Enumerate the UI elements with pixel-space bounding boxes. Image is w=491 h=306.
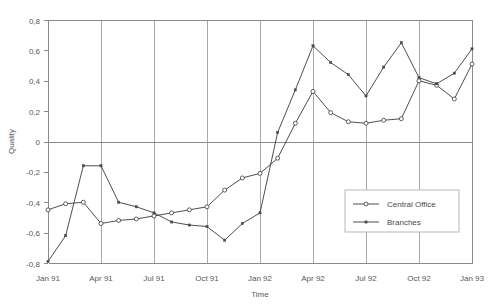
data-point-marker: [330, 61, 332, 63]
data-point-marker: [294, 89, 296, 91]
x-tick-label: Jan 91: [36, 274, 61, 283]
legend-marker-open-circle-icon: [364, 202, 368, 206]
data-point-marker: [277, 131, 279, 133]
data-point-marker: [64, 202, 68, 206]
data-point-marker: [188, 224, 190, 226]
data-point-marker: [187, 208, 191, 212]
x-tick-label: Apr 91: [89, 274, 113, 283]
line-chart: 0,80,60,40,20-0,2-0,4-0,6-0,8Jan 91Apr 9…: [0, 0, 491, 306]
data-point-marker: [452, 97, 456, 101]
data-point-marker: [329, 111, 333, 115]
data-point-marker: [383, 66, 385, 68]
x-tick-label: Jul 92: [355, 274, 377, 283]
legend-label: Central Office: [387, 200, 436, 209]
x-tick-label: Jul 91: [143, 274, 165, 283]
y-tick-label: 0,4: [29, 77, 41, 86]
data-point-marker: [153, 212, 155, 214]
data-point-marker: [400, 42, 402, 44]
legend-marker-dot-icon: [365, 221, 367, 223]
data-point-marker: [170, 211, 174, 215]
data-point-marker: [347, 74, 349, 76]
data-point-marker: [470, 62, 474, 66]
data-point-marker: [418, 77, 420, 79]
data-point-marker: [365, 95, 367, 97]
data-point-marker: [258, 171, 262, 175]
data-point-marker: [135, 206, 137, 208]
data-point-marker: [399, 117, 403, 121]
data-point-marker: [240, 176, 244, 180]
data-point-marker: [471, 48, 473, 50]
y-tick-label: -0,6: [26, 229, 40, 238]
data-point-marker: [99, 222, 103, 226]
data-point-marker: [346, 120, 350, 124]
data-point-marker: [382, 118, 386, 122]
data-point-marker: [436, 83, 438, 85]
data-point-marker: [47, 260, 49, 262]
legend-label: Branches: [387, 218, 421, 227]
data-point-marker: [81, 200, 85, 204]
y-tick-label: 0,2: [29, 108, 41, 117]
y-tick-label: -0,4: [26, 199, 40, 208]
y-tick-label: 0,8: [29, 17, 41, 26]
y-tick-label: 0: [36, 138, 41, 147]
data-point-marker: [46, 208, 50, 212]
data-point-marker: [205, 205, 209, 209]
data-point-marker: [152, 214, 156, 218]
data-point-marker: [206, 225, 208, 227]
x-tick-label: Jan 93: [460, 274, 485, 283]
legend: Central OfficeBranches: [345, 190, 459, 232]
chart-canvas: 0,80,60,40,20-0,2-0,4-0,6-0,8Jan 91Apr 9…: [0, 0, 491, 306]
y-tick-label: 0,6: [29, 47, 41, 56]
data-point-marker: [100, 165, 102, 167]
data-point-marker: [312, 45, 314, 47]
data-point-marker: [311, 89, 315, 93]
data-point-marker: [259, 212, 261, 214]
data-point-marker: [118, 201, 120, 203]
data-point-marker: [117, 218, 121, 222]
data-point-marker: [223, 188, 227, 192]
data-point-marker: [82, 165, 84, 167]
data-point-marker: [171, 221, 173, 223]
data-point-marker: [65, 235, 67, 237]
x-tick-label: Oct 92: [407, 274, 431, 283]
y-tick-label: -0,2: [26, 168, 40, 177]
y-axis-title: Quality: [7, 129, 16, 154]
x-tick-label: Apr 92: [301, 274, 325, 283]
data-point-marker: [364, 121, 368, 125]
x-tick-label: Jan 92: [248, 274, 273, 283]
data-point-marker: [224, 239, 226, 241]
y-tick-label: -0,8: [26, 260, 40, 269]
data-point-marker: [276, 156, 280, 160]
x-tick-label: Oct 91: [195, 274, 219, 283]
data-point-marker: [134, 217, 138, 221]
data-point-marker: [417, 79, 421, 83]
data-point-marker: [453, 72, 455, 74]
data-point-marker: [293, 121, 297, 125]
data-point-marker: [241, 222, 243, 224]
x-axis-title: Time: [251, 290, 269, 299]
